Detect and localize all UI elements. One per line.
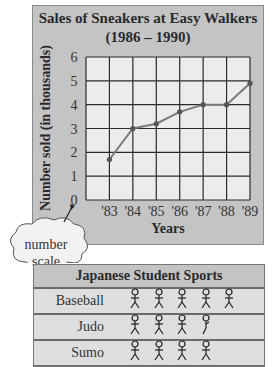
data-point <box>247 81 252 86</box>
figure-icons <box>124 340 218 366</box>
x-tick-label: '84 <box>125 204 142 219</box>
callout-line1: number <box>8 236 84 253</box>
pictograph-title: Japanese Student Sports <box>34 265 264 289</box>
stick-figure-icon <box>148 314 170 336</box>
table-row: Judo <box>34 315 264 341</box>
row-label: Sumo <box>34 345 104 361</box>
data-point <box>130 126 135 131</box>
stick-figure-icon <box>195 340 217 362</box>
y-tick-label: 2 <box>71 145 78 160</box>
stick-figure-icon <box>218 288 240 310</box>
stick-figure-icon <box>171 288 193 310</box>
x-tick-label: '87 <box>195 204 212 219</box>
figure-icons <box>124 288 242 314</box>
x-axis-label: Years <box>86 221 250 237</box>
data-point <box>177 109 182 114</box>
stick-figure-icon <box>171 314 193 336</box>
pictograph-table: Japanese Student Sports BaseballJudoSumo <box>33 264 265 367</box>
data-point <box>224 102 229 107</box>
y-tick-label: 4 <box>71 98 78 113</box>
stick-figure-icon <box>195 288 217 310</box>
data-point <box>154 121 159 126</box>
y-axis-label: Number sold (in thousands) <box>38 45 54 211</box>
stick-figure-icon <box>148 288 170 310</box>
stick-figure-icon <box>124 288 146 310</box>
data-point <box>201 102 206 107</box>
row-label: Baseball <box>34 293 104 309</box>
row-label: Judo <box>34 319 104 335</box>
stick-figure-icon <box>124 314 146 336</box>
y-tick-label: 1 <box>71 169 78 184</box>
x-tick-label: '85 <box>148 204 165 219</box>
data-point <box>107 157 112 162</box>
stick-figure-icon <box>124 340 146 362</box>
x-tick-label: '83 <box>101 204 118 219</box>
x-tick-label: '89 <box>242 204 259 219</box>
x-tick-label: '88 <box>218 204 235 219</box>
stick-figure-icon <box>148 340 170 362</box>
y-tick-label: 5 <box>71 74 78 89</box>
x-tick-label: '86 <box>171 204 188 219</box>
figure-icons <box>124 314 218 340</box>
stick-figure-icon <box>171 340 193 362</box>
table-row: Baseball <box>34 289 264 315</box>
y-tick-label: 3 <box>71 122 78 137</box>
half-stick-figure-icon <box>195 314 217 336</box>
y-tick-label: 6 <box>71 50 78 65</box>
y-tick-label: 0 <box>71 193 78 208</box>
table-row: Sumo <box>34 341 264 366</box>
